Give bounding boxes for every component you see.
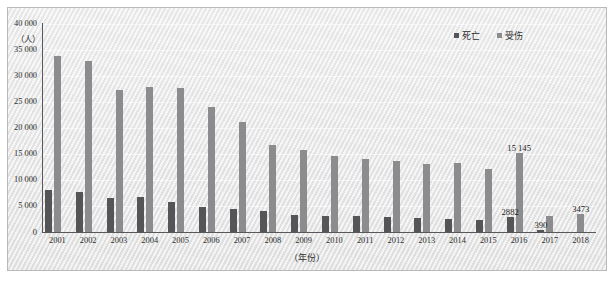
- bar-injuries: [269, 145, 276, 232]
- bar-group: [350, 23, 381, 232]
- y-tick-label: 10 000: [14, 176, 37, 184]
- bar-group: [442, 23, 473, 232]
- bar-deaths: [476, 220, 483, 232]
- x-tick-label: 2001: [42, 236, 73, 245]
- bar-deaths: [230, 209, 237, 232]
- bar-deaths: [353, 216, 360, 232]
- bar-deaths: [322, 216, 329, 232]
- bar-deaths: [507, 217, 514, 232]
- bar-group: [196, 23, 227, 232]
- x-axis-tick-labels: 2001200220032004200520062007200820092010…: [42, 236, 596, 250]
- bar-injuries: [454, 163, 461, 232]
- bar-deaths: [384, 217, 391, 232]
- x-axis-line: [42, 232, 596, 233]
- y-axis-unit-label: （人）: [8, 32, 40, 44]
- bar-injuries: [300, 150, 307, 232]
- x-tick-label: 2016: [504, 236, 535, 245]
- bar-injuries: [485, 169, 492, 232]
- bar-injuries: [146, 87, 153, 232]
- data-label: 3473: [561, 204, 601, 214]
- bar-deaths: [445, 219, 452, 232]
- x-tick-label: 2003: [104, 236, 135, 245]
- bar-injuries: [577, 214, 584, 232]
- x-tick-label: 2015: [473, 236, 504, 245]
- y-tick-label: 20 000: [14, 124, 37, 132]
- x-tick-label: 2010: [319, 236, 350, 245]
- bar-deaths: [199, 207, 206, 232]
- bar-group: [165, 23, 196, 232]
- bar-deaths: [537, 230, 544, 232]
- y-tick-label: 0: [33, 229, 37, 237]
- bar-injuries: [208, 107, 215, 232]
- x-tick-label: 2007: [227, 236, 258, 245]
- bar-deaths: [107, 198, 114, 232]
- x-tick-label: 2017: [534, 236, 565, 245]
- bar-group: [104, 23, 135, 232]
- bar-injuries: [239, 122, 246, 232]
- bar-injuries: [393, 161, 400, 232]
- y-tick-label: 35 000: [14, 46, 37, 54]
- bar-group: [227, 23, 258, 232]
- bar-group: [319, 23, 350, 232]
- data-label: 15 145: [499, 143, 539, 153]
- bar-group: [381, 23, 412, 232]
- x-tick-label: 2006: [196, 236, 227, 245]
- bar-injuries: [331, 156, 338, 232]
- bar-deaths: [260, 211, 267, 232]
- x-tick-label: 2012: [381, 236, 412, 245]
- x-tick-label: 2008: [257, 236, 288, 245]
- bar-injuries: [116, 90, 123, 232]
- chart-container: 死亡受伤 40 00035 00030 00025 00020 00015 00…: [7, 7, 607, 271]
- bar-group: [565, 23, 596, 232]
- data-label: 2882: [490, 207, 530, 217]
- x-tick-label: 2014: [442, 236, 473, 245]
- plot-area: 40 00035 00030 00025 00020 00015 00010 0…: [42, 23, 596, 233]
- bar-group: [473, 23, 504, 232]
- bar-group: [534, 23, 565, 232]
- x-tick-label: 2004: [134, 236, 165, 245]
- x-tick-label: 2011: [350, 236, 381, 245]
- bar-group: [257, 23, 288, 232]
- bar-group: [504, 23, 535, 232]
- bar-group: [134, 23, 165, 232]
- bar-deaths: [168, 202, 175, 232]
- bar-deaths: [414, 218, 421, 232]
- bar-deaths: [137, 197, 144, 232]
- y-tick-label: 30 000: [14, 72, 37, 80]
- bar-group: [42, 23, 73, 232]
- bar-injuries: [362, 159, 369, 232]
- bar-injuries: [423, 164, 430, 232]
- bar-deaths: [45, 190, 52, 232]
- y-tick-label: 15 000: [14, 150, 37, 158]
- bar-group: [411, 23, 442, 232]
- bar-injuries: [177, 88, 184, 232]
- x-tick-label: 2009: [288, 236, 319, 245]
- y-axis-tick-labels: 40 00035 00030 00025 00020 00015 00010 0…: [8, 23, 40, 233]
- x-axis-title: （年份）: [8, 251, 606, 264]
- bar-group: [288, 23, 319, 232]
- x-tick-label: 2013: [411, 236, 442, 245]
- x-tick-label: 2005: [165, 236, 196, 245]
- bar-injuries: [54, 56, 61, 232]
- bar-group: [73, 23, 104, 232]
- x-tick-label: 2018: [565, 236, 596, 245]
- y-tick-label: 40 000: [14, 20, 37, 28]
- bar-injuries: [85, 61, 92, 232]
- y-tick-label: 5 000: [18, 202, 37, 210]
- bar-deaths: [291, 215, 298, 232]
- data-label: 390: [521, 220, 561, 230]
- bar-deaths: [76, 192, 83, 232]
- x-tick-label: 2002: [73, 236, 104, 245]
- y-tick-label: 25 000: [14, 98, 37, 106]
